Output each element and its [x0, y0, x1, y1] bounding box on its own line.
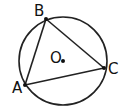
vertex-a-dot	[23, 83, 27, 87]
edge-ca	[25, 68, 104, 85]
edge-ab	[25, 19, 46, 85]
label-a: A	[12, 79, 23, 97]
geometry-diagram: B A C O	[0, 0, 124, 112]
label-b: B	[34, 2, 44, 20]
label-c: C	[108, 60, 118, 78]
vertex-b-dot	[44, 17, 48, 21]
vertex-c-dot	[102, 66, 106, 70]
label-o: O	[50, 49, 62, 67]
